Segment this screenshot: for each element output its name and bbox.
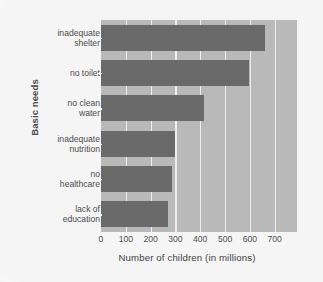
gridline (250, 20, 251, 232)
category-label: nohealthcare (24, 169, 100, 189)
x-axis-tick-labels: 0100200300400500600700 (101, 234, 323, 248)
gridline (225, 20, 226, 232)
gridline (275, 20, 276, 232)
bar (101, 60, 249, 86)
category-label: inadequateshelter (24, 28, 100, 48)
category-label: no toilet (24, 68, 100, 78)
category-label-line: lack of (24, 204, 100, 214)
gridline (175, 20, 176, 232)
gridline (200, 20, 201, 232)
gridline (151, 20, 152, 232)
y-axis-tick (97, 214, 102, 215)
y-axis-tick (97, 144, 102, 145)
category-label-line: no (24, 169, 100, 179)
category-label-line: inadequate (24, 28, 100, 38)
y-axis-tick (97, 179, 102, 180)
bar-chart-figure: Basic needs inadequateshelterno toiletno… (12, 6, 311, 276)
category-label-line: shelter (24, 38, 100, 48)
y-axis-tick (97, 108, 102, 109)
plot-area (101, 20, 297, 232)
category-label-line: no toilet (24, 68, 100, 78)
x-axis-tick-label: 700 (260, 234, 290, 244)
category-label: inadequatenutrition (24, 134, 100, 154)
category-label-line: healthcare (24, 179, 100, 189)
x-axis-title: Number of children (in millions) (72, 252, 302, 263)
y-axis-tick (97, 38, 102, 39)
bar (101, 201, 168, 227)
category-label: no cleanwater (24, 98, 100, 118)
category-label-line: education (24, 214, 100, 224)
bar (101, 166, 172, 192)
category-label-line: no clean (24, 98, 100, 108)
page-background: Basic needs inadequateshelterno toiletno… (0, 0, 323, 282)
category-label-line: nutrition (24, 144, 100, 154)
gridline (126, 20, 127, 232)
category-label-line: inadequate (24, 134, 100, 144)
category-label-line: water (24, 108, 100, 118)
bar (101, 95, 204, 121)
category-label: lack ofeducation (24, 204, 100, 224)
bar (101, 131, 175, 157)
category-label-column: inadequateshelterno toiletno cleanwateri… (24, 20, 100, 232)
y-axis-tick (97, 73, 102, 74)
bar (101, 25, 265, 51)
